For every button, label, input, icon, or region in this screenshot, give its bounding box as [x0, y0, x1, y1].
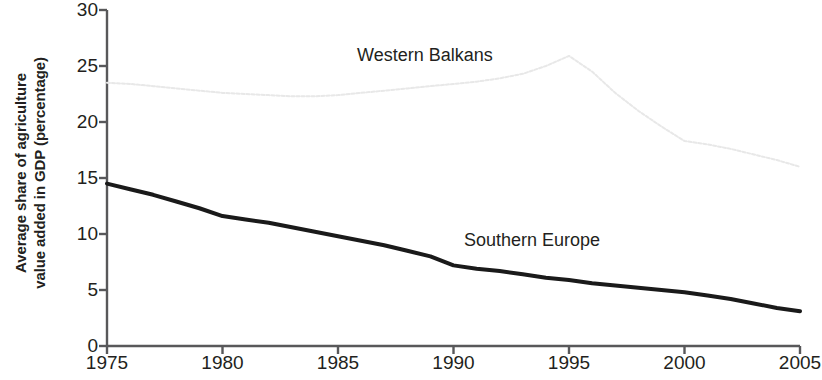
series-label-southern-europe: Southern Europe [464, 230, 600, 250]
line-chart: Average share of agriculture value added… [0, 0, 822, 380]
series-label-western-balkans: Western Balkans [357, 45, 493, 65]
series-line-southern-europe [107, 184, 800, 312]
data-series [107, 56, 800, 311]
series-line-western-balkans [107, 56, 800, 167]
